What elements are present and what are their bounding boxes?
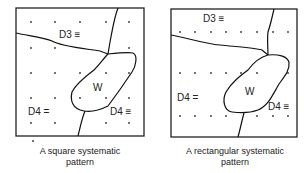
caption-line-2: pattern [66,157,94,167]
label-d4-left: D4 = [177,92,199,103]
caption-line-1: A rectangular systematic [186,146,285,156]
label-d4-right: D4 ≡ [268,101,290,112]
label-d4-right: D4 ≡ [110,106,132,117]
square-pattern-panel: D3 ≡ W D4 = D4 ≡ A square systematic pat… [16,8,144,167]
boundary-vertical-top [108,8,118,54]
boundary-d3 [171,35,268,55]
label-d4-left: D4 = [28,106,50,117]
panel-frame [171,9,297,137]
boundary-vertical-bottom [78,111,85,136]
label-w: W [93,82,103,93]
label-d3: D3 ≡ [59,29,81,40]
caption-line-1: A square systematic [40,146,121,156]
rectangular-pattern-panel: D3 ≡ W D4 = D4 ≡ A rectangular systemati… [171,9,297,167]
label-d3: D3 ≡ [203,13,225,24]
systematic-patterns-diagram: D3 ≡ W D4 = D4 ≡ A square systematic pat… [0,0,304,173]
wetland-w-outline [71,53,136,112]
label-w: W [245,86,255,97]
boundary-vertical-bottom [238,113,244,137]
caption-line-2: pattern [221,157,249,167]
